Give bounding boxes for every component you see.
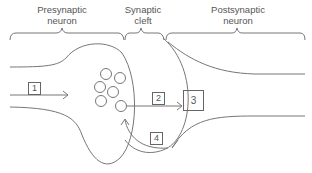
vesicle [115, 73, 126, 84]
postsynaptic-bottom [172, 116, 305, 148]
vesicle [108, 87, 119, 98]
brace-presynaptic [10, 28, 124, 40]
label-postsynaptic: Postsynaptic neuron [205, 4, 271, 26]
label-presynaptic-line2: neuron [32, 15, 92, 26]
label-postsynaptic-line2: neuron [205, 15, 271, 26]
step-4-box: 4 [150, 132, 163, 145]
vesicle [95, 82, 106, 93]
vesicle [101, 69, 112, 80]
label-postsynaptic-line1: Postsynaptic [205, 4, 271, 15]
label-presynaptic: Presynaptic neuron [32, 4, 92, 26]
step-1-box: 1 [28, 82, 41, 95]
brace-postsynaptic [166, 28, 305, 40]
vesicle [116, 101, 127, 112]
synapse-diagram: Presynaptic neuron Synaptic cleft Postsy… [0, 0, 312, 173]
label-cleft-line2: cleft [118, 15, 168, 26]
vesicle [96, 96, 107, 107]
brace-cleft [125, 28, 164, 40]
postsynaptic-top [168, 42, 305, 74]
label-cleft-line1: Synaptic [118, 4, 168, 15]
step-3-box: 3 [183, 90, 204, 111]
step-2-box: 2 [152, 92, 165, 105]
label-cleft: Synaptic cleft [118, 4, 168, 26]
presynaptic-axon-top [10, 44, 122, 67]
label-presynaptic-line1: Presynaptic [32, 4, 92, 15]
